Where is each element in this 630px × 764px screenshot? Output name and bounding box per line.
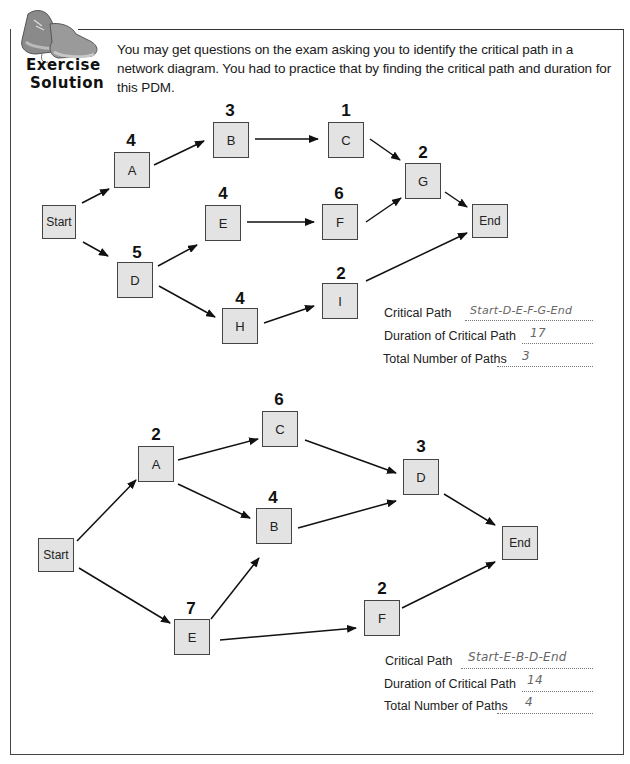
node-a-1: A <box>114 152 150 188</box>
edge-d-h <box>159 286 215 317</box>
node-g-1: G <box>405 163 441 199</box>
node-e-2: E <box>174 619 210 655</box>
node-end-2: End <box>502 526 538 560</box>
duration-label-1: Duration of Critical Path <box>384 329 516 343</box>
duration-label-2: Duration of Critical Path <box>384 677 516 691</box>
node-a-2: A <box>138 446 174 482</box>
duration-g-1: 2 <box>408 143 438 163</box>
duration-d-1: 5 <box>122 243 152 263</box>
node-c-2: C <box>262 411 298 447</box>
edge-c-g <box>370 139 400 160</box>
total-paths-blank-1 <box>497 352 593 367</box>
critical-path-answer-2: Start-E-B-D-End <box>468 650 567 664</box>
duration-d-2: 3 <box>406 437 436 457</box>
total-paths-label-1: Total Number of Paths <box>383 352 507 366</box>
edge2-start-e <box>79 568 170 623</box>
edge2-a-b <box>178 484 250 518</box>
duration-h-1: 4 <box>225 289 255 309</box>
total-paths-blank-2 <box>497 699 593 714</box>
duration-a-1: 4 <box>116 131 146 151</box>
node-f-1: F <box>322 204 358 240</box>
edge-f-g <box>366 198 401 222</box>
duration-a-2: 2 <box>141 425 171 445</box>
edge-h-i <box>264 306 314 323</box>
edge-start-d <box>83 242 108 256</box>
duration-f-2: 2 <box>367 579 397 599</box>
duration-answer-2: 14 <box>527 673 543 687</box>
duration-c-1: 1 <box>331 101 361 121</box>
node-start-1: Start <box>42 205 76 239</box>
node-b-1: B <box>213 122 249 158</box>
node-e-1: E <box>205 205 241 241</box>
edge-start-a <box>82 189 109 203</box>
edge-g-end <box>445 192 467 207</box>
edge2-a-c <box>178 439 258 460</box>
node-d-2: D <box>403 459 439 495</box>
edge2-start-a <box>77 480 136 541</box>
duration-e-2: 7 <box>176 599 206 619</box>
critical-path-label-1: Critical Path <box>384 306 451 320</box>
edge2-d-end <box>444 494 495 525</box>
duration-f-1: 6 <box>324 184 354 204</box>
duration-b-2: 4 <box>258 488 288 508</box>
edge2-e-b <box>211 558 259 619</box>
critical-path-answer-1: Start-D-E-F-G-End <box>470 304 572 317</box>
total-paths-label-2: Total Number of Paths <box>384 699 508 713</box>
edge-i-end <box>366 233 467 281</box>
duration-e-1: 4 <box>208 184 238 204</box>
edge-d-e <box>158 245 197 266</box>
node-start-2: Start <box>38 538 74 572</box>
duration-b-1: 3 <box>215 101 245 121</box>
node-h-1: H <box>222 308 258 344</box>
node-c-1: C <box>328 122 364 158</box>
node-f-2: F <box>364 600 400 636</box>
edge2-c-d <box>305 440 396 473</box>
edge2-b-d <box>298 501 396 528</box>
edge2-f-end <box>402 562 495 608</box>
edge-a-b <box>154 141 204 165</box>
total-paths-answer-2: 4 <box>525 695 533 709</box>
edge2-e-f <box>220 628 356 640</box>
critical-path-label-2: Critical Path <box>385 654 452 668</box>
node-i-1: I <box>322 283 358 319</box>
duration-answer-1: 17 <box>530 326 546 340</box>
total-paths-answer-1: 3 <box>522 349 530 363</box>
duration-i-1: 2 <box>326 264 356 284</box>
node-b-2: B <box>256 508 292 544</box>
node-d-1: D <box>117 262 153 298</box>
duration-c-2: 6 <box>264 390 294 410</box>
node-end-1: End <box>472 204 508 238</box>
